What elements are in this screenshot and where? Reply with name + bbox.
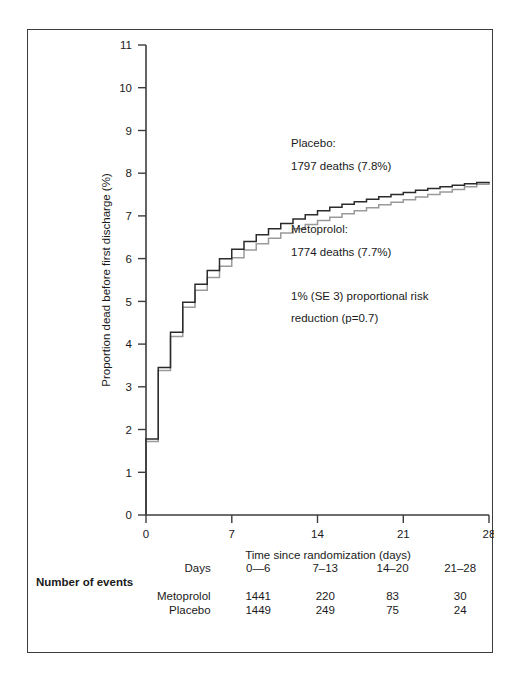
annotation-placebo-heading: Placebo: — [291, 137, 336, 149]
spacer-cell — [225, 575, 292, 589]
event-count-cell: 24 — [426, 603, 494, 617]
event-count-cell: 249 — [292, 603, 359, 617]
x-tick-label: 28 — [483, 528, 494, 540]
x-tick-label: 0 — [143, 528, 149, 540]
spacer-cell — [359, 575, 427, 589]
x-tick-label: 7 — [229, 528, 235, 540]
spacer-cell — [292, 575, 359, 589]
x-axis-tick-labels: 0 7 14 21 28 — [143, 528, 494, 540]
event-count-cell: 83 — [359, 589, 427, 603]
annotation-metoprolol-heading: Metoprolol: — [291, 223, 348, 235]
day-range-cell: 0—6 — [225, 561, 292, 575]
table-row-days-header: Days 0—6 7–13 14–20 21–28 — [28, 561, 494, 575]
y-tick-label: 3 — [126, 381, 132, 393]
chart-annotations: Placebo: 1797 deaths (7.8%) Metoprolol: … — [291, 137, 429, 324]
y-axis-ticks — [138, 45, 146, 515]
table-row: Metoprolol 1441 220 83 30 — [28, 589, 494, 603]
spacer-cell — [426, 575, 494, 589]
day-range-cell: 14–20 — [359, 561, 427, 575]
y-tick-label: 11 — [120, 39, 132, 51]
event-count-cell: 1441 — [225, 589, 292, 603]
y-axis-tick-labels: 11 10 9 8 7 6 5 4 3 2 1 0 — [119, 39, 132, 521]
y-tick-label: 2 — [126, 424, 132, 436]
event-count-cell: 75 — [359, 603, 427, 617]
annotation-risk-line1: 1% (SE 3) proportional risk — [291, 290, 429, 302]
figure-frame: 11 10 9 8 7 6 5 4 3 2 1 0 — [27, 29, 493, 653]
y-tick-label: 7 — [126, 210, 132, 222]
y-tick-label: 6 — [126, 253, 132, 265]
row-label-placebo: Placebo — [28, 603, 225, 617]
section-label: Number of events — [28, 575, 225, 589]
event-count-cell: 30 — [426, 589, 494, 603]
y-tick-label: 0 — [126, 509, 132, 521]
y-tick-label: 8 — [126, 167, 132, 179]
x-tick-label: 21 — [397, 528, 410, 540]
x-tick-label: 14 — [311, 528, 324, 540]
y-tick-label: 4 — [126, 338, 133, 350]
event-count-cell: 220 — [292, 589, 359, 603]
table-row-section-header: Number of events — [28, 575, 494, 589]
annotation-risk-line2: reduction (p=0.7) — [291, 312, 378, 324]
days-label: Days — [28, 561, 225, 575]
table-row: Placebo 1449 249 75 24 — [28, 603, 494, 617]
annotation-metoprolol-detail: 1774 deaths (7.7%) — [291, 246, 392, 258]
y-tick-label: 9 — [126, 125, 132, 137]
x-axis-ticks — [146, 515, 489, 523]
event-count-cell: 1449 — [225, 603, 292, 617]
x-axis-title: Time since randomization (days) — [245, 549, 411, 561]
row-label-metoprolol: Metoprolol — [28, 589, 225, 603]
day-range-cell: 7–13 — [292, 561, 359, 575]
y-tick-label: 1 — [126, 467, 132, 479]
day-range-cell: 21–28 — [426, 561, 494, 575]
annotation-placebo-detail: 1797 deaths (7.8%) — [291, 160, 392, 172]
number-of-events-table: Days 0—6 7–13 14–20 21–28 Number of even… — [28, 561, 494, 617]
y-axis-title: Proportion dead before first discharge (… — [100, 173, 112, 387]
y-tick-label: 10 — [119, 82, 132, 94]
y-tick-label: 5 — [126, 296, 132, 308]
